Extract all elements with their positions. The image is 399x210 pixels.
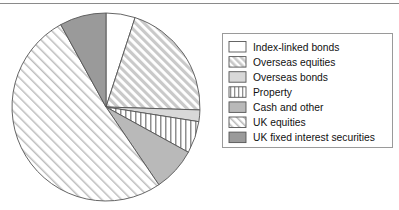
legend-label-property: Property	[253, 87, 293, 98]
legend-item-uk-equities[interactable]: UK equities	[229, 117, 306, 128]
legend-item-property[interactable]: Property	[229, 87, 293, 98]
legend: Index-linked bondsOverseas equitiesOvers…	[222, 33, 394, 149]
swatch-overseas-bonds	[229, 72, 246, 83]
pie-chart-area: Index-linked bonds 5%Overseas equities 2…	[0, 0, 215, 210]
swatch-property	[229, 87, 246, 98]
pie-slice-group: Index-linked bonds 5%Overseas equities 2…	[12, 13, 200, 201]
swatch-cash-and-other	[229, 102, 246, 113]
swatch-uk-fixed-interest-securities	[229, 132, 246, 143]
legend-label-overseas-equities: Overseas equities	[253, 57, 335, 68]
legend-label-index-linked-bonds: Index-linked bonds	[253, 42, 339, 53]
legend-label-uk-equities: UK equities	[253, 117, 306, 128]
pie-chart-figure: Index-linked bonds 5%Overseas equities 2…	[0, 0, 399, 210]
swatch-uk-equities	[229, 117, 246, 128]
legend-label-cash-and-other: Cash and other	[253, 102, 324, 113]
legend-label-overseas-bonds: Overseas bonds	[253, 72, 328, 83]
legend-svg: Index-linked bondsOverseas equitiesOvers…	[222, 33, 394, 149]
swatch-overseas-equities	[229, 57, 246, 68]
legend-label-uk-fixed-interest-securities: UK fixed interest securities	[253, 132, 375, 143]
pie-svg: Index-linked bonds 5%Overseas equities 2…	[0, 0, 215, 210]
legend-item-cash-and-other[interactable]: Cash and other	[229, 102, 324, 113]
legend-item-overseas-bonds[interactable]: Overseas bonds	[229, 72, 328, 83]
swatch-index-linked-bonds	[229, 42, 246, 53]
legend-item-index-linked-bonds[interactable]: Index-linked bonds	[229, 42, 339, 53]
legend-item-overseas-equities[interactable]: Overseas equities	[229, 57, 335, 68]
